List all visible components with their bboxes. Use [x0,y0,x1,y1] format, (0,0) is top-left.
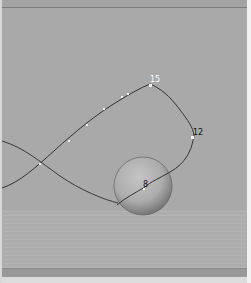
motion-path-back [2,141,118,203]
scene-svg: 15 12 8 [0,0,251,283]
3d-viewport[interactable]: 15 12 8 [0,0,251,283]
frame-label-12: 12 [193,128,203,137]
frame-label-8: 8 [143,180,148,189]
frame-label-15: 15 [150,75,160,84]
